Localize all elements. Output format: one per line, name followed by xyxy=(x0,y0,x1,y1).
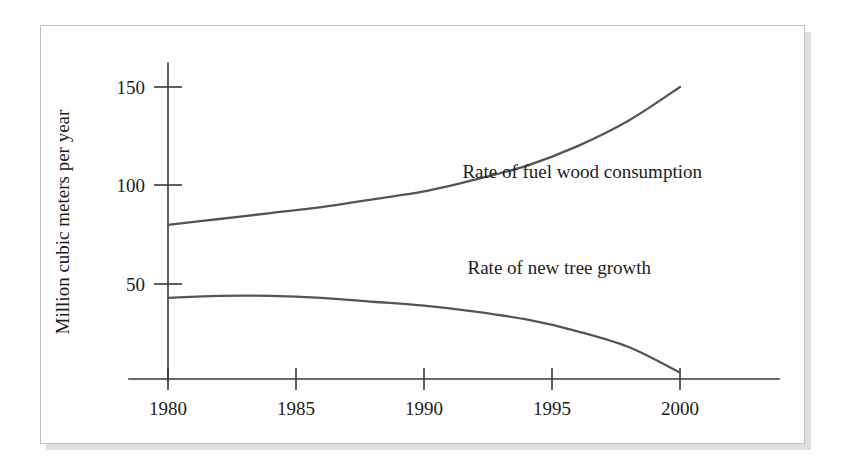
figure-page: 150 100 50 1980 1985 1990 1995 2000 Mill… xyxy=(0,0,857,476)
x-tick-label-1995: 1995 xyxy=(533,398,571,419)
line-chart: 150 100 50 1980 1985 1990 1995 2000 Mill… xyxy=(41,26,804,443)
x-tick-label-1980: 1980 xyxy=(149,398,187,419)
figure-frame: 150 100 50 1980 1985 1990 1995 2000 Mill… xyxy=(40,25,805,444)
series-line-fuel-wood-consumption xyxy=(168,87,680,225)
series-annotation-new-tree-growth: Rate of new tree growth xyxy=(468,257,652,278)
y-tick-label-50: 50 xyxy=(126,274,145,295)
y-axis-title: Million cubic meters per year xyxy=(52,109,73,334)
y-tick-label-150: 150 xyxy=(117,77,146,98)
series-line-new-tree-growth xyxy=(168,296,680,373)
x-tick-label-1985: 1985 xyxy=(277,398,315,419)
x-tick-label-1990: 1990 xyxy=(405,398,443,419)
y-tick-label-100: 100 xyxy=(117,175,146,196)
x-tick-label-2000: 2000 xyxy=(661,398,699,419)
series-annotation-fuel-wood-consumption: Rate of fuel wood consumption xyxy=(462,161,702,182)
